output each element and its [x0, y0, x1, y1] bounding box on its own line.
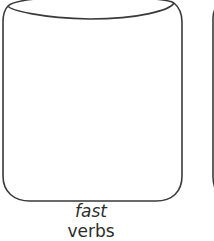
container-label-line-1: fast	[31, 201, 151, 221]
cylinder-body-partial	[213, 6, 214, 194]
cylinder-body	[3, 3, 182, 201]
cylinder-top-rim	[8, 3, 174, 19]
cylinder-container-partial	[213, 6, 214, 194]
container-label-line-2: verbs	[31, 221, 151, 241]
cylinder-container-fast-verbs	[3, 0, 182, 201]
cylinder-top-back-rim	[8, 0, 174, 6]
